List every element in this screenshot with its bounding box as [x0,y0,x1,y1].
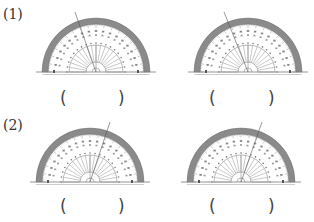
protractor-1-1 [36,12,156,75]
answer-1b-close: ) [268,88,275,108]
protractor-1-2 [188,12,308,75]
answer-2b-open: ( [209,196,216,216]
answer-1b-open: ( [209,88,216,108]
answer-1a-open: ( [60,88,67,108]
answer-1a-close: ) [118,88,125,108]
answer-2a-open: ( [60,196,67,216]
protractor-figures [0,0,314,222]
protractor-2-1 [30,122,150,185]
protractor-2-2 [181,122,301,185]
answer-2a-close: ) [118,196,125,216]
answer-2b-close: ) [268,196,275,216]
